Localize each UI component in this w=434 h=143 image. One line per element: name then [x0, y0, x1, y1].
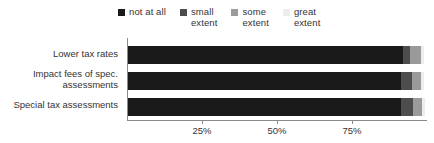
bar-segment[interactable] [410, 46, 421, 64]
bar-row[interactable] [128, 72, 424, 90]
bar-segment[interactable] [128, 98, 401, 116]
bar-segment[interactable] [401, 98, 413, 116]
x-tick-mark [277, 120, 278, 124]
legend-item-great-extent[interactable]: great extent [283, 6, 320, 28]
x-axis-ticks: 25%50%75% [127, 120, 427, 140]
y-axis-label: Special tax assessments [0, 100, 118, 111]
y-axis-labels: Lower tax rates Impact fees of spec. ass… [0, 38, 123, 120]
x-tick-mark [202, 120, 203, 124]
bar-segment[interactable] [413, 98, 422, 116]
chart-legend: not at all small extent some extent grea… [118, 6, 428, 34]
legend-label: small extent [191, 6, 217, 28]
bar-segment[interactable] [128, 72, 401, 90]
legend-swatch-icon [231, 9, 238, 16]
legend-label: not at all [129, 6, 166, 17]
bar-segment[interactable] [128, 46, 403, 64]
bar-row[interactable] [128, 98, 425, 116]
y-axis-label: Lower tax rates [0, 49, 118, 60]
x-tick-mark [352, 120, 353, 124]
x-tick-label: 75% [342, 125, 361, 136]
chart-container: not at all small extent some extent grea… [0, 0, 434, 143]
legend-label: some extent [242, 6, 268, 28]
plot-area [127, 38, 427, 120]
legend-label: great extent [294, 6, 320, 28]
bar-segment[interactable] [412, 72, 421, 90]
bar-segment[interactable] [421, 46, 424, 64]
x-tick-label: 25% [192, 125, 211, 136]
bar-segment[interactable] [422, 98, 425, 116]
bar-segment[interactable] [401, 72, 412, 90]
x-tick-label: 50% [267, 125, 286, 136]
bar-row[interactable] [128, 46, 424, 64]
legend-swatch-icon [283, 9, 290, 16]
bar-segment[interactable] [403, 46, 411, 64]
y-axis-label: Impact fees of spec. assessments [0, 69, 118, 90]
legend-swatch-icon [118, 9, 125, 16]
legend-item-some-extent[interactable]: some extent [231, 6, 268, 28]
legend-swatch-icon [180, 9, 187, 16]
bar-segment[interactable] [421, 72, 424, 90]
legend-item-not-at-all[interactable]: not at all [118, 6, 166, 17]
legend-item-small-extent[interactable]: small extent [180, 6, 217, 28]
